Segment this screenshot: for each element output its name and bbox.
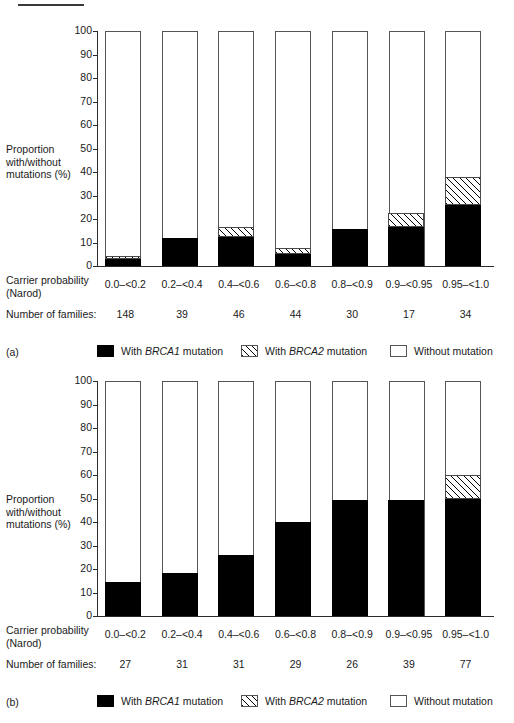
stacked-bar[interactable]: [275, 31, 311, 266]
y-tick-mark: [93, 616, 97, 617]
category-label: 0.6–<0.8: [267, 278, 324, 290]
category-label: 0.9–<0.95: [381, 628, 438, 640]
bar-segment-brca1: [105, 582, 141, 616]
y-tick-mark: [93, 593, 97, 594]
y-tick-mark: [93, 569, 97, 570]
stacked-bar[interactable]: [445, 31, 481, 266]
plot-area-b: 1009080706050403020100: [97, 381, 494, 616]
y-axis-line-a: [97, 31, 98, 267]
families-label-a: Number of families:: [6, 308, 96, 320]
y-tick-mark: [93, 125, 97, 126]
stacked-bar[interactable]: [389, 381, 425, 616]
stacked-bar[interactable]: [162, 381, 198, 616]
x-caption-line-2: (Narod): [6, 637, 89, 650]
bar-segment-brca1: [218, 237, 254, 266]
stacked-bar[interactable]: [332, 381, 368, 616]
y-tick-mark: [93, 149, 97, 150]
category-label: 0.6–<0.8: [267, 628, 324, 640]
stacked-bar[interactable]: [218, 31, 254, 266]
x-caption-line-1: Carrier probability: [6, 274, 89, 287]
families-values-b: 27313129263977: [97, 658, 494, 672]
panel-label-b: (b): [6, 696, 19, 708]
bar-segment-brca1: [445, 499, 481, 617]
bar-segment-brca1: [275, 522, 311, 616]
y-tick-label: 40: [80, 515, 92, 527]
y-tick-label: 60: [80, 468, 92, 480]
bar-segment-brca2: [275, 248, 311, 254]
y-tick-label: 30: [80, 539, 92, 551]
families-value: 44: [267, 308, 324, 320]
y-tick-label: 0: [86, 259, 92, 271]
category-label: 0.2–<0.4: [154, 628, 211, 640]
x-caption-line-2: (Narod): [6, 287, 89, 300]
y-tick-label: 90: [80, 398, 92, 410]
y-tick-mark: [93, 31, 97, 32]
top-divider-rule: [18, 4, 84, 6]
category-label: 0.4–<0.6: [210, 628, 267, 640]
category-label: 0.95–<1.0: [437, 628, 494, 640]
legend-b: (b) With BRCA1 mutationWith BRCA2 mutati…: [0, 694, 514, 710]
stacked-bar[interactable]: [389, 31, 425, 266]
legend-label: With BRCA1 mutation: [121, 694, 223, 708]
bar-segment-brca1: [332, 500, 368, 616]
y-tick-mark: [93, 243, 97, 244]
y-tick-label: 70: [80, 95, 92, 107]
stacked-bar[interactable]: [332, 31, 368, 266]
families-value: 31: [154, 658, 211, 670]
y-tick-mark: [93, 381, 97, 382]
category-label: 0.95–<1.0: [437, 278, 494, 290]
stacked-bar[interactable]: [105, 381, 141, 616]
stacked-bar[interactable]: [445, 381, 481, 616]
families-value: 39: [381, 658, 438, 670]
y-tick-mark: [93, 196, 97, 197]
families-value: 46: [210, 308, 267, 320]
category-label: 0.0–<0.2: [97, 628, 154, 640]
bar-segment-brca2: [388, 213, 424, 227]
families-value: 27: [97, 658, 154, 670]
stacked-bar[interactable]: [218, 381, 254, 616]
y-tick-label: 50: [80, 492, 92, 504]
x-axis-line-a: [97, 266, 494, 267]
x-axis-caption-a: Carrier probability (Narod): [6, 274, 89, 299]
y-tick-mark: [93, 55, 97, 56]
y-tick-mark: [93, 452, 97, 453]
category-label: 0.2–<0.4: [154, 278, 211, 290]
y-tick-label: 20: [80, 562, 92, 574]
bar-segment-brca1: [105, 259, 141, 266]
y-tick-label: 20: [80, 212, 92, 224]
x-axis-caption-b: Carrier probability (Narod): [6, 624, 89, 649]
y-tick-mark: [93, 546, 97, 547]
y-tick-mark: [93, 78, 97, 79]
bar-segment-brca1: [332, 229, 368, 267]
y-tick-label: 30: [80, 189, 92, 201]
y-tick-mark: [93, 499, 97, 500]
y-tick-mark: [93, 428, 97, 429]
families-value: 77: [437, 658, 494, 670]
legend-swatch-hatch: [241, 345, 258, 357]
bar-segment-brca1: [218, 555, 254, 616]
bar-segment-brca1: [162, 238, 198, 266]
families-value: 39: [154, 308, 211, 320]
y-tick-label: 70: [80, 445, 92, 457]
stacked-bar[interactable]: [162, 31, 198, 266]
y-tick-mark: [93, 405, 97, 406]
category-label: 0.9–<0.95: [381, 278, 438, 290]
y-tick-mark: [93, 266, 97, 267]
stacked-bar[interactable]: [275, 381, 311, 616]
y-tick-label: 60: [80, 118, 92, 130]
legend-label: Without mutation: [414, 344, 493, 358]
category-label: 0.8–<0.9: [324, 278, 381, 290]
y-tick-label: 10: [80, 586, 92, 598]
category-label: 0.8–<0.9: [324, 628, 381, 640]
y-tick-mark: [93, 219, 97, 220]
bar-segment-brca2: [445, 475, 481, 499]
stacked-bar[interactable]: [105, 31, 141, 266]
y-tick-label: 0: [86, 609, 92, 621]
y-tick-mark: [93, 522, 97, 523]
y-tick-label: 10: [80, 236, 92, 248]
legend-swatch-black: [97, 345, 114, 357]
families-value: 30: [324, 308, 381, 320]
y-tick-label: 100: [74, 24, 92, 36]
y-tick-mark: [93, 172, 97, 173]
bar-segment-brca1: [388, 227, 424, 266]
